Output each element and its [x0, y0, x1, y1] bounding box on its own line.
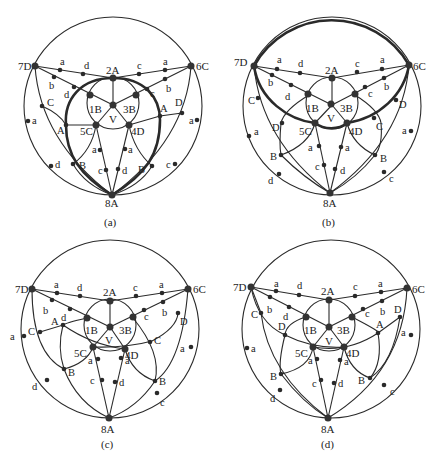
svg-text:a: a [189, 115, 194, 126]
svg-text:a: a [402, 125, 407, 136]
svg-text:a: a [380, 54, 385, 65]
node-5C: 5C [80, 125, 93, 137]
node-2A: 2A [106, 64, 120, 76]
node-7D: 7D [15, 283, 29, 295]
svg-text:A: A [51, 316, 59, 327]
svg-text:c: c [98, 165, 103, 176]
svg-text:c: c [160, 397, 165, 408]
svg-text:A: A [160, 103, 168, 114]
node-8A: 8A [101, 423, 115, 435]
svg-text:a: a [274, 278, 279, 289]
svg-text:b: b [43, 305, 48, 316]
svg-text:D: D [394, 304, 402, 315]
node-5C: 5C [295, 347, 308, 359]
svg-text:c: c [312, 378, 317, 389]
svg-text:d: d [61, 312, 67, 323]
node-3B: 3B [123, 103, 136, 115]
edge-4D-A-D [129, 113, 182, 125]
node-7D: 7D [234, 56, 248, 68]
panel-d: 7D 6C 2A 1B 3B V 5C 4D 8A a d c a b d c … [233, 240, 425, 451]
svg-text:B: B [68, 367, 75, 378]
svg-text:B: B [159, 376, 166, 387]
svg-text:c: c [90, 375, 95, 386]
svg-text:a: a [32, 115, 37, 126]
svg-text:B: B [138, 164, 145, 175]
node-4D: 4D [349, 125, 363, 137]
svg-text:C: C [248, 95, 255, 106]
svg-text:B: B [79, 160, 86, 171]
node-2A: 2A [103, 286, 117, 298]
node-5C: 5C [74, 347, 87, 359]
svg-text:C: C [47, 97, 54, 108]
svg-text:a: a [378, 278, 383, 289]
node-1B: 1B [304, 324, 317, 336]
node-1B: 1B [89, 103, 102, 115]
node-5C: 5C [299, 125, 312, 137]
panel-b: 7D 6C 2A 1B 3B V 5C 4D 8A a d c a b d c … [234, 17, 426, 229]
svg-text:a: a [344, 356, 349, 367]
svg-text:d: d [270, 393, 276, 404]
node-6C: 6C [196, 60, 209, 72]
svg-text:c: c [133, 282, 138, 293]
svg-text:d: d [77, 282, 83, 293]
svg-text:C: C [28, 326, 35, 337]
svg-text:B: B [358, 375, 365, 386]
svg-text:b: b [162, 307, 167, 318]
svg-text:c: c [353, 281, 358, 292]
edge-4D-8A [330, 123, 347, 193]
svg-text:a: a [308, 355, 313, 366]
node-3B: 3B [119, 324, 132, 336]
panel-c: 7D 6C 2A 1B 3B V 5C 4D 8A a d c a b d c … [10, 240, 206, 451]
svg-text:b: b [166, 83, 171, 94]
node-8A: 8A [323, 197, 337, 209]
svg-text:a: a [277, 54, 282, 65]
svg-text:d: d [298, 58, 304, 69]
svg-text:c: c [150, 88, 155, 99]
node-6C: 6C [412, 283, 425, 295]
svg-text:c: c [144, 311, 149, 322]
caption-a: (a) [104, 216, 117, 229]
svg-text:c: c [368, 88, 373, 99]
svg-text:a: a [128, 144, 133, 155]
svg-text:a: a [308, 142, 313, 153]
svg-text:b: b [49, 80, 54, 91]
panel-a: 7D 6C 2A 1B 3B V 5C 4D 8A a d c a b d c … [18, 17, 209, 229]
svg-text:a: a [345, 142, 350, 153]
caption-b: (b) [322, 216, 335, 229]
node-V: V [327, 112, 335, 124]
edge-5C-8A [93, 347, 109, 418]
svg-text:C: C [251, 309, 258, 320]
svg-text:d: d [297, 280, 303, 291]
svg-text:b: b [384, 81, 389, 92]
svg-text:c: c [166, 159, 171, 170]
node-7D: 7D [233, 281, 247, 293]
node-8A: 8A [321, 423, 335, 435]
svg-text:a: a [180, 343, 185, 354]
svg-text:D: D [180, 316, 188, 327]
svg-text:B: B [270, 151, 277, 162]
svg-text:a: a [60, 56, 65, 67]
node-3B: 3B [340, 102, 353, 114]
svg-text:a: a [92, 144, 97, 155]
svg-text:D: D [272, 122, 280, 133]
svg-text:B: B [270, 371, 277, 382]
svg-text:C: C [154, 335, 161, 346]
svg-text:a: a [251, 343, 256, 354]
svg-text:b: b [267, 304, 272, 315]
svg-text:c: c [389, 173, 394, 184]
svg-text:A: A [376, 319, 384, 330]
svg-text:a: a [125, 355, 130, 366]
node-4D: 4D [131, 125, 145, 137]
svg-text:D: D [175, 97, 183, 108]
svg-text:a: a [254, 126, 259, 137]
svg-text:a: a [401, 327, 406, 338]
node-7D: 7D [18, 60, 32, 72]
svg-text:c: c [355, 58, 360, 69]
node-2A: 2A [321, 285, 335, 297]
node-1B: 1B [85, 324, 98, 336]
svg-text:c: c [315, 161, 320, 172]
svg-text:d: d [338, 378, 344, 389]
svg-text:b: b [268, 77, 273, 88]
svg-text:d: d [64, 89, 70, 100]
node-8A: 8A [105, 197, 119, 209]
